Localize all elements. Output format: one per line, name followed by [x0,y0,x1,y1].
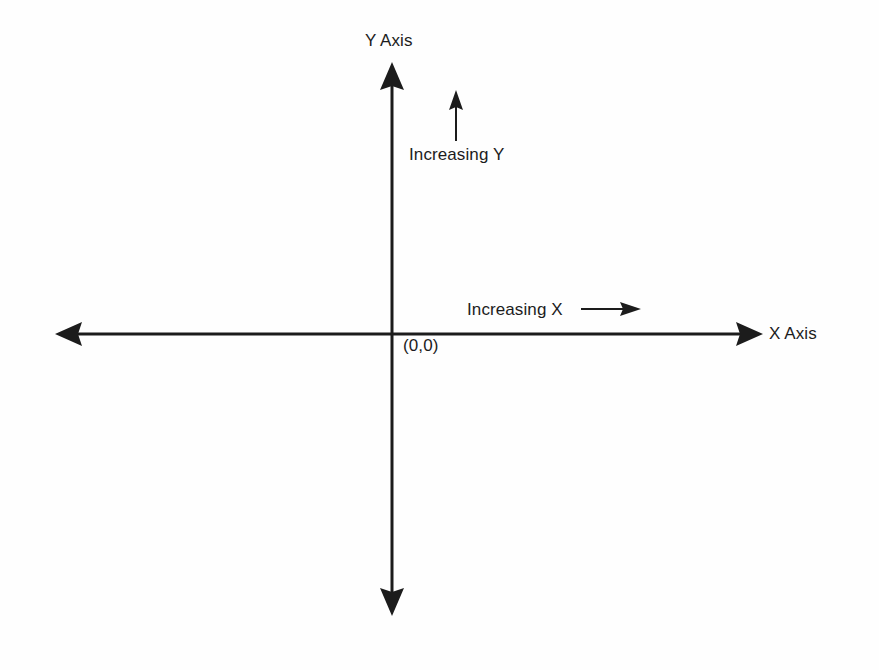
x-axis-left-arrowhead [55,322,82,346]
increasing-y-arrowhead [449,90,463,110]
increasing-y-label: Increasing Y [409,145,504,165]
x-axis-right-arrowhead [736,322,763,346]
x-axis-label: X Axis [769,324,817,344]
increasing-x-label: Increasing X [467,300,563,320]
increasing-x-arrowhead [620,302,641,316]
diagram-canvas: Y Axis X Axis (0,0) Increasing Y Increas… [0,0,879,670]
y-axis-label: Y Axis [365,31,413,51]
axes-diagram [0,0,879,670]
y-axis-bottom-arrowhead [380,588,404,616]
y-axis-top-arrowhead [380,62,404,90]
origin-label: (0,0) [403,336,438,356]
